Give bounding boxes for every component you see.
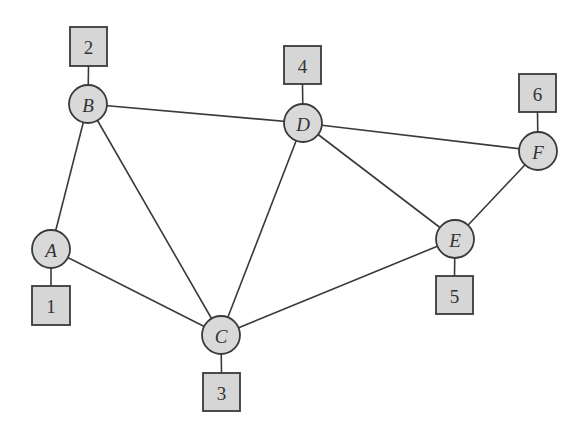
node-A: A [32,230,70,268]
node-label: B [82,95,94,116]
graph-diagram: 123456 ABCDEF [0,0,586,444]
node-label: A [43,240,57,261]
node-C: C [202,316,240,354]
boxes-layer: 123456 [32,27,556,411]
node-E: E [436,220,474,258]
node-label: F [531,142,544,163]
node-label: D [295,114,310,135]
box-6: 6 [519,74,556,112]
box-label: 2 [84,37,94,58]
edge-A-B [51,104,88,249]
edge-B-D [88,104,303,123]
node-label: E [448,230,461,251]
box-label: 6 [533,84,543,105]
edge-C-D [221,123,303,335]
box-5: 5 [436,276,473,314]
edge-C-E [221,239,455,335]
node-D: D [284,104,322,142]
box-1: 1 [32,286,70,325]
edge-B-C [88,104,221,335]
edge-D-F [303,123,538,151]
node-label: C [215,326,228,347]
box-4: 4 [284,46,321,84]
box-2: 2 [70,27,107,66]
box-label: 1 [46,296,56,317]
box-3: 3 [203,373,240,411]
edge-D-E [303,123,455,239]
nodes-layer: ABCDEF [32,85,557,354]
box-label: 4 [298,56,308,77]
box-label: 5 [450,286,460,307]
node-F: F [519,132,557,170]
node-B: B [69,85,107,123]
box-label: 3 [217,383,227,404]
